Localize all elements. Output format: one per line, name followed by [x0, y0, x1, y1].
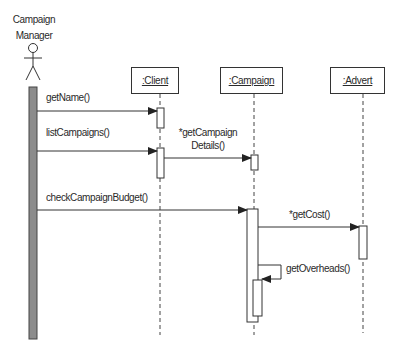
message-label-getoverheads: getOverheads() — [286, 263, 350, 274]
actor-activation-bar — [29, 87, 37, 339]
object-campaign-label: :Campaign — [229, 75, 275, 86]
actor-icon — [24, 44, 42, 81]
campaign-nested-activation — [253, 280, 262, 316]
client-activation-2 — [157, 148, 164, 178]
object-client: :Client — [131, 67, 179, 94]
campaign-activation-1 — [251, 155, 258, 170]
message-label-getcost: *getCost() — [289, 209, 330, 220]
message-arrow-getoverheads — [258, 265, 281, 279]
message-label-getcampaigndetails-1: *getCampaign — [172, 127, 244, 138]
object-client-label: :Client — [142, 75, 168, 86]
object-campaign: :Campaign — [220, 67, 283, 94]
advert-activation — [359, 226, 367, 259]
actor-name-line1: Campaign — [9, 14, 59, 25]
message-label-getname: getName() — [46, 92, 90, 103]
actor-name-line2: Manager — [9, 30, 59, 41]
client-activation-1 — [157, 108, 164, 128]
message-label-getcampaigndetails-2: Details() — [172, 140, 244, 151]
object-advert-label: :Advert — [343, 75, 373, 86]
sequence-diagram-canvas — [0, 0, 416, 357]
message-label-checkcampaignbudget: checkCampaignBudget() — [46, 192, 148, 203]
object-advert: :Advert — [330, 67, 385, 94]
message-label-listcampaigns: listCampaigns() — [46, 127, 109, 138]
